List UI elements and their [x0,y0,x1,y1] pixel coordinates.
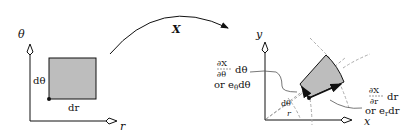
polar-mapping-diagram: θ r dθ dr X y x d [0,0,417,135]
parameter-element [49,58,96,99]
arc-right-lower [339,82,349,108]
arc-inner-bottom [310,99,312,125]
mapping-curve [110,16,228,54]
mapping-arrow: X [110,16,228,54]
arc-outer-top [310,38,330,58]
mapping-label: X [171,23,181,36]
r-axis-arrow-icon [106,118,117,124]
right-panel: y x dθ r ∂X ∂θ dθ or eθdθ ∂X ∂r dr [214,28,400,128]
theta-axis-label: θ [18,28,25,41]
theta-annotation-numerator: ∂X [217,59,227,68]
angle-label: dθ [281,99,291,108]
theta-leader-line [250,71,297,92]
x-axis-label: x [364,115,371,128]
r-annotation-suffix: dr [387,91,398,102]
r-axis-label: r [120,120,126,133]
dr-label: dr [68,102,79,113]
corner-point [47,97,51,101]
dtheta-label: dθ [33,75,45,86]
r-annotation-numerator: ∂X [369,86,379,95]
theta-annotation-suffix: dθ [235,64,247,75]
r-leader-line [330,100,362,108]
theta-axis-arrow-icon [27,44,33,55]
theta-annotation-denominator: ∂θ [217,70,226,79]
y-axis-label: y [255,28,263,41]
theta-annotation-alt: or eθdθ [214,79,251,92]
y-axis-arrow-icon [262,42,268,53]
left-panel: θ r dθ dr [18,28,126,133]
radius-label: r [287,109,292,118]
x-axis-arrow-icon [341,117,352,123]
arc-outer-right [343,54,370,68]
